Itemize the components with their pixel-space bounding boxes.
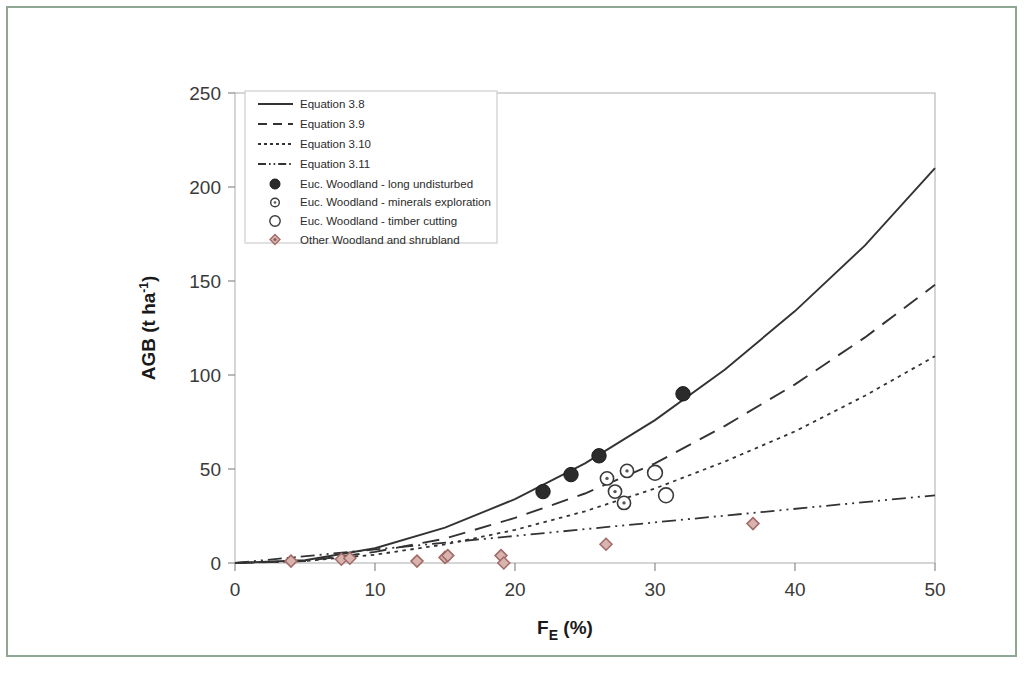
x-tick-label-50: 50: [924, 579, 945, 600]
x-axis-title: FE (%): [537, 617, 593, 643]
y-axis-ticks: [228, 93, 235, 563]
data-point: [659, 488, 674, 503]
x-tick-label-30: 30: [644, 579, 665, 600]
legend-swatch-filled-circle-marker: [270, 179, 280, 189]
y-tick-label-100: 100: [189, 365, 221, 386]
x-tick-label-20: 20: [504, 579, 525, 600]
legend-label: Euc. Woodland - timber cutting: [300, 215, 457, 227]
y-axis-title-superscript: -1: [137, 282, 151, 293]
legend-label: Equation 3.11: [300, 158, 370, 170]
y-tick-label-200: 200: [189, 177, 221, 198]
svg-text:FE (%): FE (%): [537, 617, 593, 643]
x-tick-label-10: 10: [364, 579, 385, 600]
data-point: [608, 485, 621, 498]
data-point: [536, 484, 550, 498]
legend-entry-euc-woodland-long-undisturbed[interactable]: Euc. Woodland - long undisturbed: [270, 178, 473, 190]
legend-swatch-open-circle-marker: [270, 216, 280, 226]
chart-legend: Equation 3.8 Equation 3.9 Equation 3.10 …: [245, 91, 497, 246]
y-axis-title-main: AGB (t ha: [138, 292, 159, 380]
legend-swatch-small-open-circle-dot-marker: [271, 198, 280, 207]
data-point: [564, 467, 578, 481]
y-axis-title-tail: ): [138, 276, 159, 282]
x-axis-title-main: F: [537, 617, 549, 638]
y-tick-label-0: 0: [210, 553, 221, 574]
data-point: [620, 464, 633, 477]
x-axis-tick-labels: 0 10 20 30 40 50: [230, 579, 946, 600]
x-tick-label-40: 40: [784, 579, 805, 600]
legend-label: Euc. Woodland - long undisturbed: [300, 178, 473, 190]
x-axis-title-subscript: E: [549, 627, 558, 643]
y-tick-label-250: 250: [189, 83, 221, 104]
y-tick-label-150: 150: [189, 271, 221, 292]
page-canvas: 0 50 100 150 200 250 0 10 20 30 40 50: [0, 0, 1027, 699]
data-point: [600, 472, 613, 485]
legend-label: Equation 3.8: [300, 98, 365, 110]
x-axis-title-unit: (%): [558, 617, 593, 638]
data-point: [676, 387, 690, 401]
svg-text:AGB (t ha-1): AGB (t ha-1): [137, 276, 159, 381]
legend-label: Euc. Woodland - minerals exploration: [300, 196, 491, 208]
data-point: [617, 496, 630, 509]
y-axis-title: AGB (t ha-1): [137, 276, 159, 381]
x-tick-label-0: 0: [230, 579, 241, 600]
y-tick-label-50: 50: [200, 459, 221, 480]
y-axis-tick-labels: 0 50 100 150 200 250: [189, 83, 221, 574]
legend-entry-euc-woodland-minerals-exploration[interactable]: Euc. Woodland - minerals exploration: [271, 196, 491, 208]
data-point: [648, 465, 663, 480]
legend-label: Other Woodland and shrubland: [300, 234, 460, 246]
legend-label: Equation 3.9: [300, 118, 365, 130]
chart-figure: 0 50 100 150 200 250 0 10 20 30 40 50: [0, 0, 1027, 699]
data-point: [592, 449, 606, 463]
legend-label: Equation 3.10: [300, 138, 371, 150]
